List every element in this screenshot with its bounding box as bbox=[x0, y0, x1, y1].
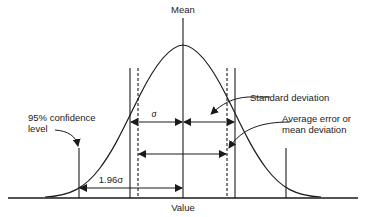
confidence-label-1: 95% confidence bbox=[28, 112, 96, 123]
normal-distribution-diagram: Mean Value σ Standard deviation Average … bbox=[0, 0, 366, 217]
confidence-leader bbox=[55, 130, 78, 146]
diagram-svg: Mean Value σ Standard deviation Average … bbox=[0, 0, 366, 217]
sigma-label: σ bbox=[152, 108, 158, 119]
avg-error-label-1: Average error or bbox=[282, 113, 351, 124]
std-dev-label: Standard deviation bbox=[250, 92, 329, 103]
value-label: Value bbox=[171, 202, 195, 213]
avg-error-label-2: mean deviation bbox=[282, 124, 346, 135]
confidence-label-2: level bbox=[28, 123, 48, 134]
mean-label: Mean bbox=[171, 4, 195, 15]
196sigma-label: 1.96σ bbox=[99, 174, 123, 185]
avg-error-leader bbox=[229, 122, 290, 148]
